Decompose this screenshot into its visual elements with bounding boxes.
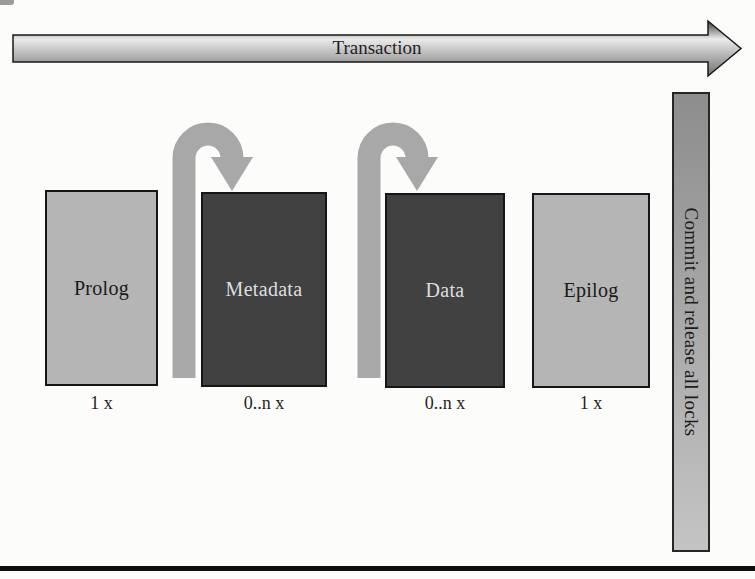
stage-label: Metadata <box>226 278 303 301</box>
transaction-arrow-label: Transaction <box>332 37 422 58</box>
stage-box-epilog: Epilog <box>532 193 650 388</box>
multiplicity-label-epilog: 1 x <box>532 393 650 414</box>
stage-box-prolog: Prolog <box>45 190 158 386</box>
stage-label: Data <box>426 279 465 302</box>
multiplicity-label-prolog: 1 x <box>45 393 158 414</box>
stage-box-metadata: Metadata <box>201 192 327 387</box>
bottom-rule <box>0 566 755 571</box>
stage-label: Prolog <box>74 277 129 300</box>
stage-label: Epilog <box>563 279 618 302</box>
stage-box-data: Data <box>385 193 505 388</box>
multiplicity-label-data: 0..n x <box>385 393 505 414</box>
transaction-arrow: Transaction <box>0 0 755 92</box>
commit-release-bar-label: Commit and release all locks <box>680 208 702 437</box>
multiplicity-label-metadata: 0..n x <box>201 393 327 414</box>
